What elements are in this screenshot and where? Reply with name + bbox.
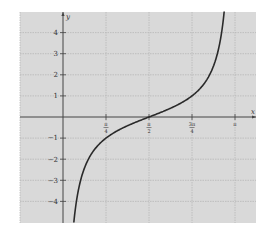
chart-svg: −4−3−2−11234π4π23π4π x y — [0, 0, 267, 233]
y-tick-label: 2 — [54, 71, 58, 79]
y-tick-label: 4 — [54, 29, 59, 37]
x-axis-label: x — [251, 108, 255, 116]
y-tick-label: 3 — [54, 50, 58, 58]
svg-text:2: 2 — [147, 128, 150, 134]
y-tick-label: −4 — [48, 198, 59, 206]
y-tick-label: −3 — [48, 177, 58, 185]
y-tick-label: 1 — [54, 92, 58, 100]
y-tick-label: −1 — [48, 134, 58, 142]
svg-text:4: 4 — [104, 128, 107, 134]
svg-text:3π: 3π — [189, 121, 196, 127]
y-tick-label: −2 — [48, 156, 58, 164]
svg-text:4: 4 — [190, 128, 193, 134]
